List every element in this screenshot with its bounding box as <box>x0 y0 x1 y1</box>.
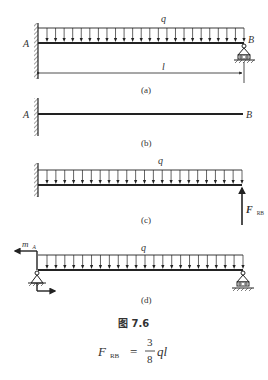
load-label-q-d: q <box>141 242 146 253</box>
roller-support-b-d <box>232 271 254 291</box>
caption-d: (d) <box>141 295 152 305</box>
distributed-load-arrows-c <box>45 170 243 184</box>
figure-title: 图 7.6 <box>118 318 149 329</box>
panel-a: q A B l (a) <box>22 13 255 95</box>
caption-a: (a) <box>141 85 151 95</box>
formula-numerator: 3 <box>147 336 153 348</box>
panel-d: q m A <box>15 233 254 305</box>
svg-text:F RB: F RB <box>97 342 120 360</box>
svg-text:ql: ql <box>157 344 168 359</box>
label-A-b: A <box>22 109 30 120</box>
label-A-a: A <box>22 38 30 49</box>
formula: F RB = 3 8 ql <box>97 336 168 365</box>
caption-c: (c) <box>141 215 151 225</box>
panel-b: A B (b) <box>22 98 252 148</box>
label-B-b: B <box>246 109 252 120</box>
length-label-l: l <box>162 61 165 72</box>
caption-b: (b) <box>141 138 152 148</box>
distributed-load-arrows-a <box>45 28 245 42</box>
panel-c: q F RB (c) <box>34 155 264 225</box>
reaction-label: F RB <box>245 199 264 216</box>
moment-label: m A <box>22 233 37 250</box>
moment-arrow-mA <box>15 251 37 270</box>
roller-support-b-a <box>234 44 255 63</box>
load-label-q-a: q <box>161 13 166 24</box>
beam-diagram-figure: q A B l (a) A B (b) <box>0 0 268 380</box>
svg-text:=: = <box>130 344 137 359</box>
horizontal-reaction-arrow-a <box>37 283 55 291</box>
load-label-q-c: q <box>158 155 163 166</box>
distributed-load-arrows-d <box>45 255 244 269</box>
label-B-a: B <box>248 34 254 45</box>
formula-denominator: 8 <box>147 353 153 365</box>
